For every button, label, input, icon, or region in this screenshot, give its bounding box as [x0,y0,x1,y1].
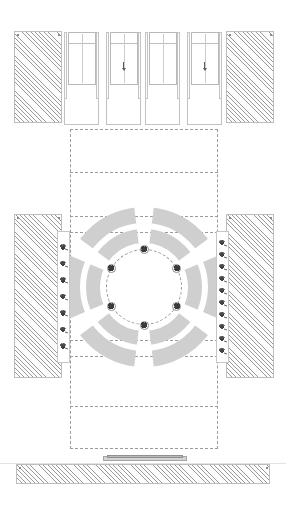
strip-right-tree-8-trunk [223,340,226,342]
strip-left-tree-4 [60,310,68,317]
strip-right-tree-1 [219,252,227,259]
entry-step-inner [107,455,183,458]
stair-unit-3-centerline [163,34,164,83]
rotunda-tree-1 [172,264,181,273]
strip-left-tree-2-trunk [64,282,67,284]
stair-unit-1-rail-1 [96,32,99,99]
strip-left-tree-1 [60,261,68,268]
wall-middle-left [14,214,62,378]
rotunda-tree-2-foliage [174,303,179,308]
strip-right-tree-6 [219,312,227,319]
stair-unit-4-landing [187,85,222,125]
stair-unit-1-landing [64,85,99,125]
rotunda-tree-3-foliage [141,322,146,327]
strip-right-tree-3-trunk [223,280,226,282]
strip-right-tree-2 [219,264,227,271]
strip-left-tree-4-trunk [64,315,67,317]
strip-left-tree-5 [60,327,68,334]
rotunda-tree-5 [107,264,116,273]
stair-unit-2-centerline [124,34,125,83]
wall-bottom-sill [16,464,270,484]
strip-left-tree-2 [60,277,68,284]
stair-unit-3-landing [145,85,180,125]
strip-right-tree-3 [219,276,227,283]
strip-right-tree-0-trunk [223,244,226,246]
strip-right-tree-9 [219,348,227,355]
rotunda-tree-0 [140,245,149,254]
rotunda-tree-1-foliage [174,265,179,270]
stair-unit-2-direction-arrow [121,62,127,71]
rotunda-center-circle [106,249,182,325]
stair-unit-2-rail-0 [106,32,109,99]
strip-right-tree-2-trunk [223,268,226,270]
rotunda-tree-0-foliage [141,246,146,251]
stair-unit-4-centerline [205,34,206,83]
strip-left-tree-1-trunk [64,265,67,267]
strip-left-tree-3 [60,294,68,301]
stair-unit-2-rail-1 [138,32,141,99]
stair-unit-4-rail-0 [187,32,190,99]
strip-right-tree-8 [219,336,227,343]
stair-unit-4[interactable] [187,32,222,125]
strip-left-tree-3-trunk [64,298,67,300]
strip-right-tree-0 [219,240,227,247]
strip-left-tree-0 [60,244,68,251]
strip-left-tree-6-trunk [64,348,67,350]
stair-unit-2[interactable] [106,32,141,125]
floor-plan-canvas [0,0,286,507]
strip-right-tree-7-trunk [223,328,226,330]
strip-right-tree-4-trunk [223,292,226,294]
strip-right-tree-1-trunk [223,256,226,258]
ground-reference-line [0,463,286,464]
stair-unit-1-centerline [82,34,83,83]
rotunda-tree-4 [107,302,116,311]
stair-unit-3[interactable] [145,32,180,125]
stair-unit-3-rail-1 [177,32,180,99]
stair-unit-1-rail-0 [64,32,67,99]
strip-right-tree-7 [219,324,227,331]
stair-unit-4-rail-1 [219,32,222,99]
layout-grid-line-h-5 [70,406,218,407]
strip-right-tree-4 [219,288,227,295]
rotunda-tree-5-foliage [108,265,113,270]
strip-left-tree-0-trunk [64,249,67,251]
rotunda-tree-4-foliage [108,303,113,308]
stair-unit-1[interactable] [64,32,99,125]
layout-grid-line-h-1 [70,216,218,217]
rotunda-tree-3 [140,321,149,330]
rotunda-tree-2 [172,302,181,311]
strip-right-tree-5 [219,300,227,307]
strip-right-tree-9-trunk [223,352,226,354]
layout-grid-line-h-4 [70,356,218,357]
layout-grid-line-h-0 [70,172,218,173]
wall-middle-right [226,214,274,378]
strip-left-tree-6 [60,343,68,350]
wall-top-right [226,31,274,123]
strip-left-tree-5-trunk [64,331,67,333]
stair-unit-2-landing [106,85,141,125]
wall-top-left [14,31,62,123]
stair-unit-4-direction-arrow [202,62,208,71]
strip-right-tree-6-trunk [223,316,226,318]
strip-right-tree-5-trunk [223,304,226,306]
stair-unit-3-rail-0 [145,32,148,99]
